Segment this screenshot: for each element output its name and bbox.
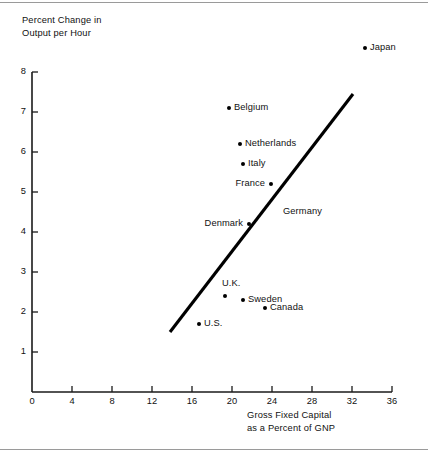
data-point-marker bbox=[363, 46, 367, 50]
data-point-marker bbox=[269, 182, 273, 186]
x-tick-label: 36 bbox=[381, 396, 403, 406]
x-tick-label: 20 bbox=[221, 396, 243, 406]
x-tick-label: 28 bbox=[301, 396, 323, 406]
data-point-label: Denmark bbox=[205, 218, 243, 228]
data-point-label: Belgium bbox=[234, 102, 268, 112]
data-point-label: U.S. bbox=[204, 318, 222, 328]
x-tick-label: 0 bbox=[21, 396, 43, 406]
y-tick-label: 4 bbox=[12, 226, 26, 236]
data-point-label: Italy bbox=[248, 158, 266, 168]
data-point-label: Canada bbox=[270, 302, 303, 312]
x-tick-label: 4 bbox=[61, 396, 83, 406]
data-point-marker bbox=[197, 322, 201, 326]
y-tick-label: 6 bbox=[12, 146, 26, 156]
x-tick-label: 32 bbox=[341, 396, 363, 406]
y-tick-label: 1 bbox=[12, 346, 26, 356]
data-point-label: U.K. bbox=[222, 278, 240, 288]
y-tick-label: 2 bbox=[12, 306, 26, 316]
y-tick-label: 7 bbox=[12, 106, 26, 116]
scatter-chart-figure: Percent Change in Output per Hour Gross … bbox=[0, 0, 428, 452]
axes bbox=[32, 72, 392, 392]
y-tick-label: 3 bbox=[12, 266, 26, 276]
data-point-label: Germany bbox=[283, 206, 322, 216]
x-tick-label: 8 bbox=[101, 396, 123, 406]
data-point-label: France bbox=[235, 178, 265, 188]
data-point-label: Netherlands bbox=[245, 138, 296, 148]
y-tick-label: 5 bbox=[12, 186, 26, 196]
data-point-marker bbox=[223, 294, 227, 298]
data-point-label: Japan bbox=[370, 42, 396, 52]
data-point-marker bbox=[247, 222, 251, 226]
data-point-marker bbox=[227, 106, 231, 110]
data-point-marker bbox=[263, 306, 267, 310]
data-point-marker bbox=[241, 298, 245, 302]
data-point-marker bbox=[238, 142, 242, 146]
y-tick-label: 8 bbox=[12, 66, 26, 76]
data-point-marker bbox=[241, 162, 245, 166]
x-tick-label: 12 bbox=[141, 396, 163, 406]
x-tick-label: 24 bbox=[261, 396, 283, 406]
x-tick-label: 16 bbox=[181, 396, 203, 406]
